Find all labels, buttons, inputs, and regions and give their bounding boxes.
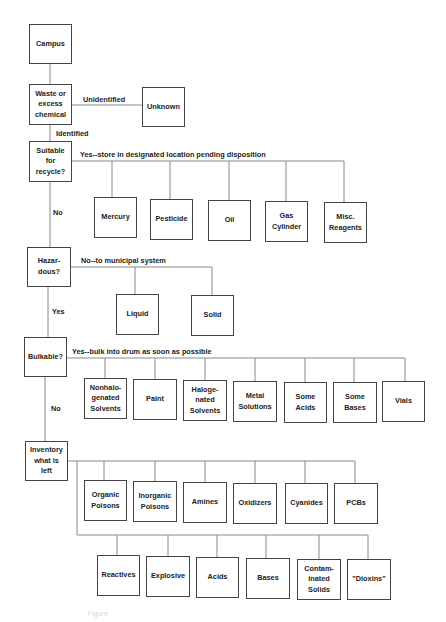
- node-pesticide: Pesticide: [150, 199, 193, 240]
- edge-label-bulkable-yes: Yes--bulk into drum as soon as possible: [72, 347, 211, 356]
- node-mercury: Mercury: [94, 197, 137, 238]
- edge-label-recycle-no: No: [53, 208, 63, 217]
- edge-label-identified: Identified: [56, 129, 88, 138]
- node-liquid: Liquid: [116, 294, 159, 335]
- node-reactives: Reactives: [97, 555, 140, 596]
- node-metal-solutions: Metal Solutions: [233, 381, 277, 422]
- node-solid: Solid: [191, 295, 234, 336]
- node-campus: Campus: [29, 24, 72, 64]
- node-some-acids: Some Acids: [284, 382, 327, 423]
- node-suitable-for-recycle: Suitable for recycle?: [29, 141, 72, 182]
- node-bases: Bases: [246, 558, 290, 599]
- flowchart-canvas: Campus Waste or excess chemical Unknown …: [0, 0, 446, 622]
- node-oil: Oil: [208, 200, 251, 241]
- node-waste-or-excess-chemical: Waste or excess chemical: [29, 84, 72, 125]
- node-unknown: Unknown: [142, 87, 185, 127]
- node-bulkable: Bulkable?: [24, 337, 67, 377]
- edge-label-recycle-yes: Yes--store in designated location pendin…: [80, 150, 266, 159]
- node-paint: Paint: [133, 379, 177, 420]
- node-nonhalogenated-solvents: Nonhalo- genated Solvents: [84, 378, 127, 419]
- node-organic-poisons: Organic Poisons: [84, 480, 127, 521]
- edge-label-hazardous-yes: Yes: [52, 307, 65, 316]
- node-contaminated-solids: Contam- inated Solids: [297, 559, 341, 600]
- edge-label-hazardous-no: No--to municipal system: [81, 256, 166, 265]
- node-inorganic-poisons: Inorganic Poisons: [133, 481, 177, 522]
- node-some-bases: Some Bases: [333, 382, 377, 423]
- node-dioxins: "Dioxins": [347, 559, 391, 600]
- node-gas-cylinder: Gas Cylinder: [265, 201, 308, 242]
- node-halogenated-solvents: Haloge- nated Solvents: [183, 380, 227, 421]
- edge-label-bulkable-no: No: [51, 404, 61, 413]
- node-pcbs: PCBs: [334, 483, 378, 524]
- node-inventory-what-is-left: Inventory what is left: [25, 441, 68, 481]
- node-explosive: Explosive: [146, 556, 190, 597]
- figure-caption: Figure: [88, 610, 108, 617]
- node-cyanides: Cyanides: [285, 483, 328, 524]
- node-amines: Amines: [183, 482, 227, 523]
- node-oxidizers: Oxidizers: [233, 483, 277, 524]
- node-acids: Acids: [196, 557, 239, 598]
- edge-label-unidentified: Unidentified: [83, 95, 125, 104]
- node-misc-reagents: Misc. Reagents: [324, 202, 367, 243]
- node-vials: Vials: [382, 381, 425, 422]
- node-hazardous: Hazar- dous?: [27, 247, 71, 287]
